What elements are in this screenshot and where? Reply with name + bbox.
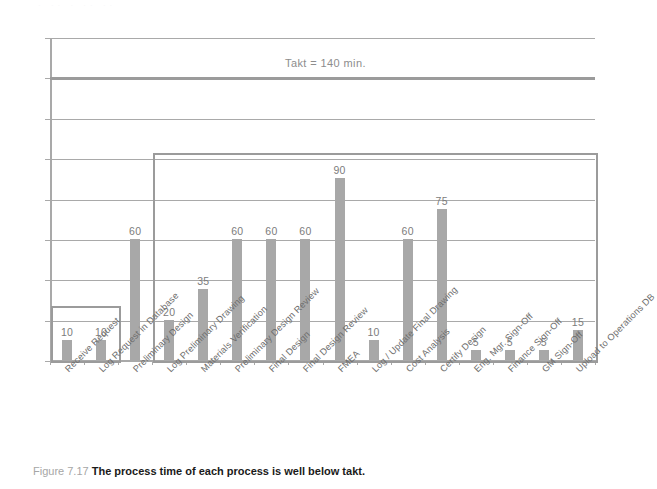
y-axis-tick-160	[45, 38, 50, 39]
y-axis-tick-80	[45, 200, 50, 201]
takt-annotation-label: Takt = 140 min.	[285, 57, 366, 69]
bar-value-label: 60	[115, 225, 155, 237]
y-axis-tick-100	[45, 159, 50, 160]
y-axis-tick-140	[45, 78, 50, 79]
reference-line-takt	[50, 77, 595, 80]
y-axis-tick-20	[45, 321, 50, 322]
gridline-160	[50, 38, 595, 39]
figure-caption: Figure 7.17 The process time of each pro…	[33, 465, 365, 477]
caption-figure-number: Figure 7.17	[33, 465, 92, 477]
gridline-120	[50, 119, 595, 120]
main-group-box	[153, 153, 598, 363]
y-axis-tick-120	[45, 119, 50, 120]
bleed-through-artifact: · ·· · ·· ··	[38, 1, 218, 11]
y-axis-tick-40	[45, 280, 50, 281]
caption-figure-text: The process time of each process is well…	[92, 465, 365, 477]
chart-plot-area: 020406080100120140160 101060203560606090…	[50, 38, 595, 361]
y-axis-tick-60	[45, 240, 50, 241]
